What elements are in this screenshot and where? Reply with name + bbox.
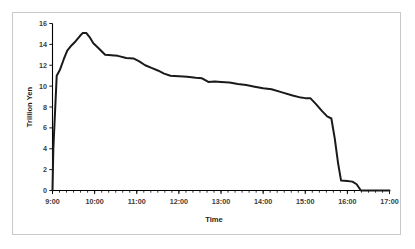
y-tick-label: 6 [43,123,47,132]
chart-figure: 0246810121416 9:0010:0011:0012:0013:0014… [0,0,415,249]
x-tick-label: 9:00 [45,197,59,206]
y-axis-tick-labels: 0246810121416 [39,19,47,195]
y-tick-label: 2 [43,165,47,174]
y-tick-label: 14 [39,40,47,49]
y-tick-label: 4 [43,144,47,153]
y-tick-label: 12 [39,61,47,70]
x-tick-label: 10:00 [85,197,103,206]
x-tick-label: 17:00 [380,197,398,206]
x-tick-label: 14:00 [254,197,272,206]
y-tick-label: 0 [43,186,47,195]
x-axis-tick-labels: 9:0010:0011:0012:0013:0014:0015:0016:001… [45,197,398,206]
line-chart-plot: 0246810121416 9:0010:0011:0012:0013:0014… [0,0,415,249]
series-line-trillion-yen [53,33,390,191]
y-axis-title: Trillion Yen [25,86,34,127]
x-tick-label: 12:00 [170,197,188,206]
x-tick-label: 13:00 [212,197,230,206]
x-axis-group [53,191,390,195]
y-tick-label: 10 [39,82,47,91]
y-tick-label: 8 [43,103,47,112]
x-axis-title: Time [205,215,223,224]
x-tick-label: 16:00 [338,197,356,206]
x-tick-label: 11:00 [128,197,146,206]
y-tick-label: 16 [39,19,47,28]
x-tick-label: 15:00 [296,197,314,206]
